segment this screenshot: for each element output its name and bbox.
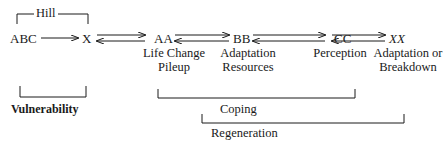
node-x: X [82,32,91,45]
regeneration-label: Regeneration [211,127,278,140]
caption-bb-line2: Resources [208,61,288,74]
hill-label: Hill [36,7,55,20]
coping-label: Coping [220,103,257,116]
caption-xx-line1: Adaptation or [368,47,445,60]
node-xx: XX [389,32,405,45]
vulnerability-label: Vulnerability [11,103,79,116]
arrow-x-aa [97,35,145,41]
vulnerability-bracket [20,86,86,97]
arrow-bb-cc [253,35,325,41]
arrow-aa-bb [175,35,229,41]
caption-aa-line2: Pileup [134,61,214,74]
node-abc: ABC [10,32,37,45]
caption-aa-line1: Life Change [134,47,214,60]
coping-bracket [158,89,355,98]
node-aa: AA [154,32,173,45]
node-bb: BB [233,32,250,45]
node-cc: CC [334,32,351,45]
caption-xx-line2: Breakdown [368,61,445,74]
caption-bb-line1: Adaptation [208,47,288,60]
